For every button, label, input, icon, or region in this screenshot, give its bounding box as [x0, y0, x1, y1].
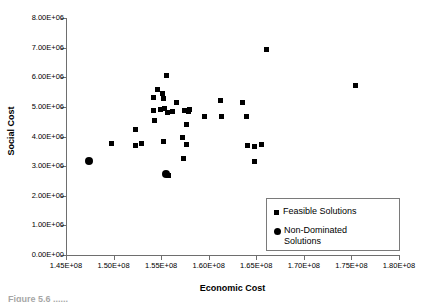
data-point-feasible — [133, 127, 138, 132]
legend-label-feasible: Feasible Solutions — [283, 206, 357, 217]
x-axis-title: Economic Cost — [66, 283, 399, 293]
y-axis-title: Social Cost — [6, 91, 16, 171]
x-tick-mark — [114, 256, 115, 260]
data-point-feasible — [181, 156, 186, 161]
x-tick-mark — [209, 256, 210, 260]
data-point-feasible — [264, 47, 269, 52]
data-point-feasible — [151, 108, 156, 113]
chart-legend: Feasible Solutions Non-Dominated Solutio… — [266, 198, 400, 251]
data-point-feasible — [202, 114, 207, 119]
data-point-feasible — [161, 96, 166, 101]
x-tick-mark — [66, 256, 67, 260]
data-point-feasible — [184, 122, 189, 127]
data-point-feasible — [219, 114, 224, 119]
data-point-feasible — [187, 107, 192, 112]
y-tick-label: 7.00E+06 — [32, 44, 64, 52]
data-point-feasible — [252, 144, 257, 149]
x-tick-label: 1.80E+08 — [369, 262, 423, 270]
x-axis-line — [66, 255, 400, 256]
y-tick-label: 3.00E+06 — [32, 162, 64, 170]
y-tick-label: 1.00E+06 — [32, 221, 64, 229]
y-tick-label: 8.00E+06 — [32, 14, 64, 22]
legend-square-marker-icon — [274, 210, 279, 215]
x-tick-mark — [161, 256, 162, 260]
x-tick-mark — [399, 256, 400, 260]
figure-caption: Figure 5.6 ...... — [8, 294, 68, 302]
data-point-feasible — [184, 142, 189, 147]
data-point-feasible — [252, 159, 257, 164]
legend-item-feasible-solutions: Feasible Solutions — [274, 206, 357, 217]
x-tick-mark — [351, 256, 352, 260]
data-point-feasible — [259, 142, 264, 147]
data-point-feasible — [170, 109, 175, 114]
legend-circle-marker-icon — [274, 228, 281, 235]
data-point-feasible — [139, 141, 144, 146]
data-point-non-dominated — [162, 170, 170, 178]
y-tick-label: 4.00E+06 — [32, 133, 64, 141]
data-point-feasible — [353, 83, 358, 88]
x-tick-mark — [304, 256, 305, 260]
data-point-feasible — [161, 139, 166, 144]
legend-label-non-dominated: Non-Dominated Solutions — [284, 225, 347, 247]
data-point-feasible — [164, 73, 169, 78]
y-tick-label: 2.00E+06 — [32, 192, 64, 200]
data-point-feasible — [109, 141, 114, 146]
data-point-feasible — [245, 143, 250, 148]
y-tick-label: 6.00E+06 — [32, 73, 64, 81]
data-point-non-dominated — [85, 157, 93, 165]
data-point-feasible — [240, 100, 245, 105]
data-point-feasible — [244, 114, 249, 119]
y-tick-label: 5.00E+06 — [32, 103, 64, 111]
x-tick-mark — [256, 256, 257, 260]
legend-item-non-dominated-solutions: Non-Dominated Solutions — [274, 225, 347, 247]
scatter-chart-figure: Social Cost Economic Cost 0.00E+001.00E+… — [0, 0, 423, 302]
data-point-feasible — [174, 100, 179, 105]
data-point-feasible — [180, 135, 185, 140]
y-tick-label: 0.00E+00 — [32, 251, 64, 259]
data-point-feasible — [151, 95, 156, 100]
data-point-feasible — [133, 143, 138, 148]
data-point-feasible — [152, 118, 157, 123]
data-point-feasible — [218, 98, 223, 103]
